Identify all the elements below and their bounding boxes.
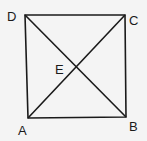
vertex-label-b: B — [129, 119, 138, 134]
square-diagram: D C E A B — [0, 0, 147, 141]
vertex-label-a: A — [18, 123, 27, 138]
vertex-label-c: C — [129, 13, 138, 28]
intersection-label-e: E — [55, 62, 64, 77]
vertex-label-d: D — [7, 9, 16, 24]
